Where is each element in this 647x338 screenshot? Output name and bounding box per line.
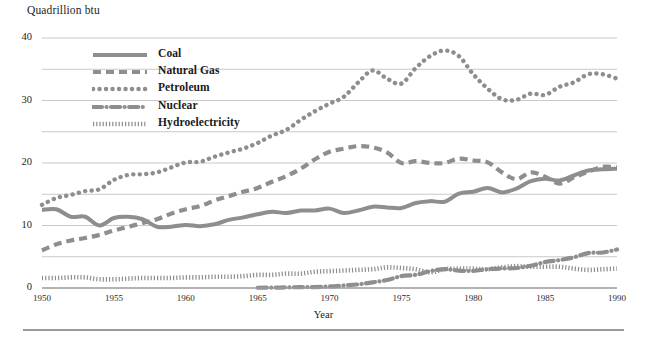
chart-legend: CoalNatural GasPetroleumNuclearHydroelec…: [92, 44, 322, 131]
legend-item: Coal: [92, 44, 322, 61]
legend-item: Hydroelectricity: [92, 114, 322, 131]
legend-item-label: Natural Gas: [158, 64, 219, 76]
solid-line-swatch: [92, 47, 148, 59]
series-line-nuclear: [258, 250, 617, 288]
legend-item-label: Hydroelectricity: [158, 116, 240, 128]
x-axis-tick-label: 1955: [94, 293, 134, 303]
y-axis-tick-label: 20: [12, 156, 32, 167]
legend-item: Natural Gas: [92, 61, 322, 78]
legend-item-label: Petroleum: [158, 81, 210, 93]
dash-dot-line-swatch: [92, 99, 148, 111]
footer-divider-rule: [23, 329, 624, 331]
series-line-natural-gas: [42, 146, 617, 250]
x-axis-tick-label: 1990: [597, 293, 637, 303]
x-axis-tick-label: 1960: [166, 293, 206, 303]
dashed-line-swatch: [92, 64, 148, 76]
fine-dotted-line-swatch: [92, 116, 148, 128]
x-axis-tick-label: 1970: [310, 293, 350, 303]
x-axis-tick-label: 1980: [453, 293, 493, 303]
series-line-coal: [42, 169, 617, 228]
x-axis-tick-label: 1975: [381, 293, 421, 303]
x-axis-tick-label: 1985: [525, 293, 565, 303]
legend-item: Nuclear: [92, 96, 322, 113]
energy-consumption-line-chart: Quadrillion btu 010203040 19501955196019…: [0, 0, 647, 338]
x-axis-tick-label: 1965: [238, 293, 278, 303]
dotted-line-swatch: [92, 81, 148, 93]
y-axis-tick-label: 10: [12, 219, 32, 230]
legend-item-label: Nuclear: [158, 99, 198, 111]
x-axis-title: Year: [0, 309, 647, 320]
legend-item-label: Coal: [158, 47, 181, 59]
series-line-hydroelectricity: [42, 266, 617, 279]
y-axis-tick-label: 30: [12, 94, 32, 105]
legend-item: Petroleum: [92, 79, 322, 96]
y-axis-tick-label: 0: [12, 281, 32, 292]
x-axis-tick-label: 1950: [22, 293, 62, 303]
y-axis-tick-label: 40: [12, 31, 32, 42]
